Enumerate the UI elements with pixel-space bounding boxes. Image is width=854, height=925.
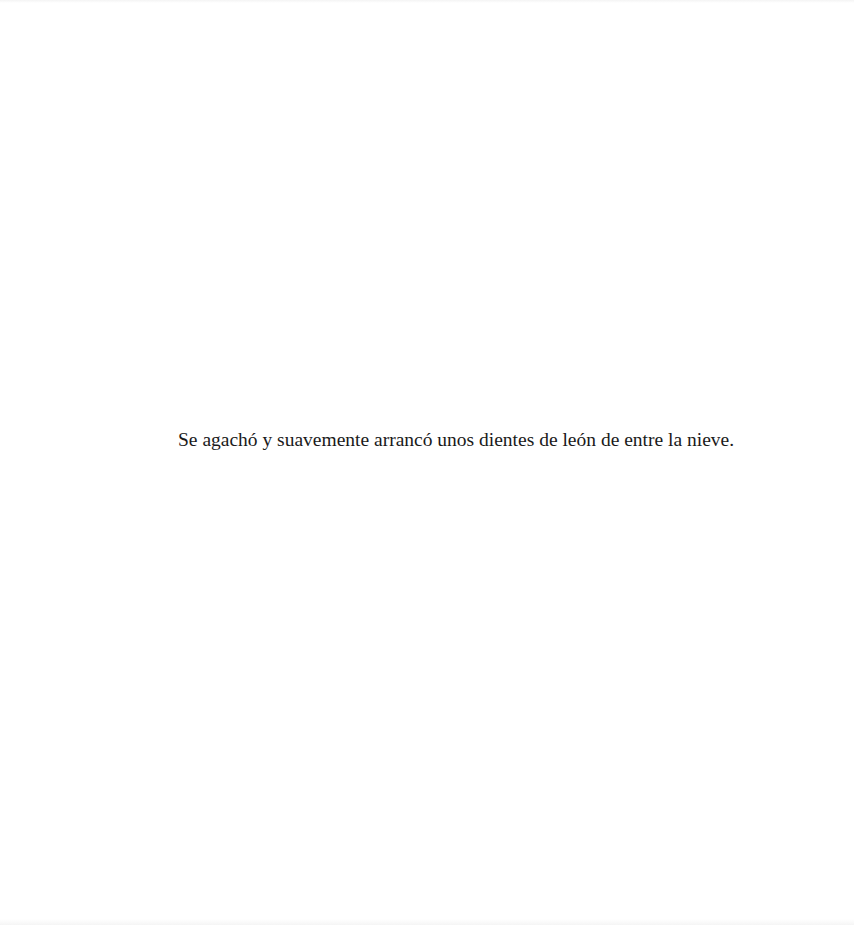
document-page: Se agachó y suavemente arrancó unos dien… (0, 0, 854, 925)
page-top-edge (0, 0, 854, 3)
page-bottom-edge (0, 919, 854, 925)
body-text-line: Se agachó y suavemente arrancó unos dien… (178, 428, 738, 452)
